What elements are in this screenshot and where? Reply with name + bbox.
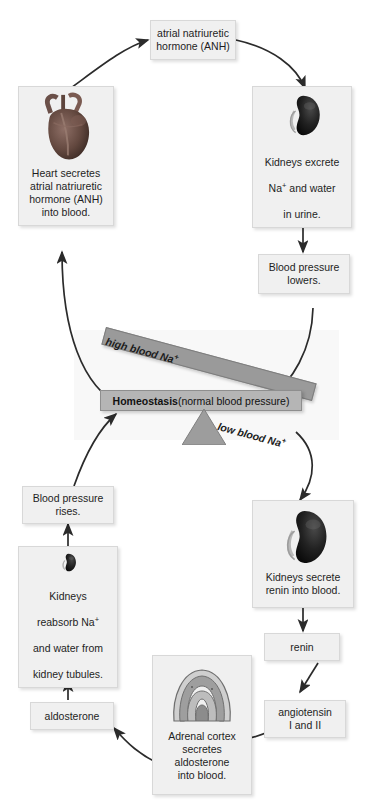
node-anh-hormone[interactable]: atrial natriuretic hormone (ANH) — [150, 20, 236, 60]
kidneys-excrete-line1: Kidneys excrete — [265, 156, 340, 168]
kidneys-excrete-line2-pre: Na — [269, 182, 282, 194]
node-renin-label: renin — [290, 641, 313, 654]
node-kidneys-excrete[interactable]: Kidneys excrete Na+ and water in urine. — [252, 86, 352, 228]
node-kidneys-renin[interactable]: Kidneys secrete renin into blood. — [252, 500, 354, 608]
node-heart-label: Heart secretes atrial natriuretic hormon… — [29, 167, 103, 219]
kidney-organ-image — [272, 506, 334, 568]
node-angiotensin-label: angiotensin I and II — [278, 706, 332, 732]
balance-fulcrum-icon — [182, 409, 226, 445]
homeostasis-rest-label: (normal blood pressure) — [178, 395, 289, 407]
arrow-anh-to-kidneys-excrete — [236, 40, 305, 88]
node-kidneys-reabsorb-label: Kidneys reabsorb Na+ and water from kidn… — [33, 577, 103, 681]
kidneys-excrete-line3: in urine. — [283, 208, 320, 220]
node-kidneys-renin-label: Kidneys secrete renin into blood. — [266, 571, 341, 597]
homeostasis-bar: Homeostasis (normal blood pressure) — [100, 390, 302, 411]
node-bp-rises-label: Blood pressure rises. — [33, 492, 104, 518]
node-aldosterone-label: aldosterone — [45, 710, 100, 723]
node-bp-lowers[interactable]: Blood pressure lowers. — [258, 254, 350, 294]
node-renin[interactable]: renin — [264, 633, 340, 661]
kidneys-reabsorb-line4: kidney tubules. — [33, 668, 103, 680]
kidneys-excrete-line2-post: and water — [286, 182, 335, 194]
adrenal-cortex-image — [166, 661, 238, 727]
node-bp-rises[interactable]: Blood pressure rises. — [22, 486, 114, 524]
node-heart[interactable]: Heart secretes atrial natriuretic hormon… — [18, 86, 114, 226]
kidneys-reabsorb-line3: and water from — [33, 642, 103, 654]
node-aldosterone[interactable]: aldosterone — [30, 702, 114, 730]
node-bp-lowers-label: Blood pressure lowers. — [269, 261, 340, 287]
node-adrenal-cortex[interactable]: Adrenal cortex secretes aldosterone into… — [152, 655, 252, 795]
arrow-balance-to-kidneys-renin — [296, 432, 312, 500]
node-kidneys-excrete-label: Kidneys excrete Na+ and water in urine. — [265, 143, 340, 221]
low-na-sup: + — [281, 436, 288, 446]
heart-organ-image — [35, 92, 97, 163]
kidneys-reabsorb-line1: Kidneys — [49, 590, 86, 602]
node-anh-hormone-label: atrial natriuretic hormone (ANH) — [156, 27, 230, 53]
node-kidneys-reabsorb[interactable]: Kidneys reabsorb Na+ and water from kidn… — [18, 546, 118, 688]
node-adrenal-cortex-label: Adrenal cortex secretes aldosterone into… — [168, 730, 236, 782]
kidney-organ-image — [36, 552, 100, 573]
kidneys-reabsorb-line2-pre: reabsorb Na — [37, 616, 95, 628]
arrow-renin-to-angiotensin — [300, 663, 318, 692]
kidney-organ-image — [270, 92, 334, 139]
homeostasis-bold-label: Homeostasis — [113, 395, 178, 407]
node-angiotensin[interactable]: angiotensin I and II — [264, 700, 346, 738]
kidneys-reabsorb-sup: + — [95, 615, 99, 624]
diagram-canvas: atrial natriuretic hormone (ANH) Heart s… — [0, 0, 382, 800]
